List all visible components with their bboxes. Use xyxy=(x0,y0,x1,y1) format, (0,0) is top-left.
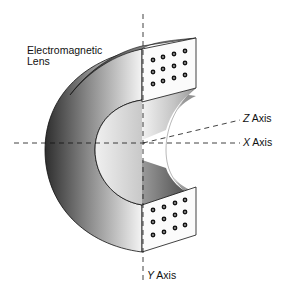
x-axis-letter: X xyxy=(243,136,250,148)
y-axis-letter: Y xyxy=(147,269,154,281)
y-axis-label: Y Axis xyxy=(147,270,176,281)
lens-label-line2: Lens xyxy=(27,56,102,67)
z-axis-letter: Z xyxy=(243,112,249,124)
lens-label: Electromagnetic Lens xyxy=(27,45,102,67)
z-axis-label: Z Axis xyxy=(243,113,272,124)
x-axis-label: X Axis xyxy=(243,137,272,148)
z-axis-word: Axis xyxy=(252,112,272,124)
x-axis-word: Axis xyxy=(252,136,272,148)
y-axis-word: Axis xyxy=(156,269,176,281)
